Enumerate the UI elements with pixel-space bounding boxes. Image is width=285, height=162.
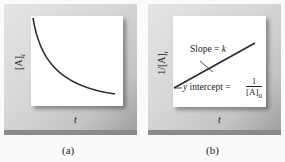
intercept-annotation: y intercept = [183, 82, 231, 92]
y-axis-label-b: 1/[A]t [156, 48, 170, 78]
panel-a: [A]t t [4, 4, 137, 135]
caption-b: (b) [206, 144, 219, 156]
plot-area-a [31, 16, 123, 106]
caption-a: (a) [62, 144, 74, 156]
panel-a-base-bar [4, 130, 137, 135]
decay-curve [31, 16, 123, 106]
plot-area-b: Slope = k y intercept = 1 [A]0 [173, 16, 266, 107]
y-axis-label-a: [A]t [13, 50, 27, 74]
x-axis-label-a: t [74, 114, 77, 125]
x-axis-label-b: t [218, 114, 221, 125]
slope-annotation: Slope = k [190, 44, 226, 54]
panel-b-base-bar [148, 130, 281, 135]
panel-b: Slope = k y intercept = 1 [A]0 1/[A]t t [148, 4, 281, 135]
intercept-fraction: 1 [A]0 [246, 76, 262, 102]
